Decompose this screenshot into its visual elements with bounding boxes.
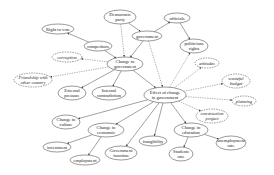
node-label: Right to vote xyxy=(46,27,70,32)
node-label: in government xyxy=(152,95,179,100)
node-label: government xyxy=(136,34,159,39)
node-label: project xyxy=(205,116,220,121)
node-friendship: Friendship withother country xyxy=(14,73,52,87)
edge-effect_of_change-to-planning xyxy=(186,97,233,101)
node-officials: officials xyxy=(164,13,190,23)
edge-effect_of_change-to-change_in_education xyxy=(171,103,186,124)
edge-effect_of_change-to-change_in_economic xyxy=(116,102,154,124)
node-external-pressure: Externalpressure xyxy=(58,86,86,100)
edge-democratic_party-to-change_to_government xyxy=(121,24,125,57)
node-politicians-rights: politiciansrights xyxy=(180,39,208,53)
node-label: officials xyxy=(170,16,185,21)
edge-change_to_government-to-corruption xyxy=(81,59,108,62)
node-investment: investment xyxy=(43,142,71,152)
edge-change_to_government-to-internal_contradiction xyxy=(113,71,121,86)
node-change-in-culture: Change inculture xyxy=(52,115,80,129)
node-change-to-government: Change togovernment xyxy=(107,57,143,71)
node-internal-contradiction: Internalcontradiction xyxy=(92,86,126,100)
node-change-in-education: Change ineducation xyxy=(174,123,208,137)
node-change-in-economic: Change ineconomic xyxy=(88,123,124,137)
nodes-layer: DemocraticpartyofficialsRight to votegov… xyxy=(14,10,256,165)
node-label: rate xyxy=(178,154,185,159)
node-label: corruption xyxy=(57,55,77,60)
node-label: employment xyxy=(74,158,98,163)
edge-effect_of_change-to-attitudes xyxy=(174,67,201,87)
node-label: other country xyxy=(21,80,47,85)
edge-change_to_government-to-external_pressure xyxy=(81,70,114,88)
edge-change_in_economic-to-investment xyxy=(67,135,93,144)
concept-map: DemocraticpartyofficialsRight to votegov… xyxy=(0,0,274,175)
node-label: investment xyxy=(47,145,68,150)
node-label: economic xyxy=(97,130,115,135)
node-frangibility: frangibility xyxy=(139,136,167,146)
edge-government-to-officials xyxy=(154,22,170,31)
edge-effect_of_change-to-frangibility xyxy=(154,103,163,136)
node-construction-project: constructionproject xyxy=(196,109,228,123)
node-employment: employment xyxy=(70,155,100,165)
node-right-to-vote: Right to vote xyxy=(42,24,74,34)
edge-change_to_government-to-effect_of_change xyxy=(133,70,156,88)
node-planning: planning xyxy=(232,96,256,106)
node-label: contradiction xyxy=(97,93,122,98)
edge-officials-to-politicians_rights xyxy=(180,23,190,39)
node-label: competitors xyxy=(87,44,109,49)
edge-effect_of_change-to-construction_project xyxy=(179,101,201,111)
edge-effect_of_change-to-politicians_rights xyxy=(170,53,190,87)
edge-effect_of_change-to-change_in_culture xyxy=(78,100,148,119)
node-label: function xyxy=(113,153,129,158)
node-wasteful-budget: wastefulbudget xyxy=(222,74,250,88)
node-students-rate: Studentsrate xyxy=(169,147,193,161)
node-unemployment-rate: unemploymentrate xyxy=(216,136,246,150)
edge-democratic_party-to-government xyxy=(128,23,140,32)
node-label: rate xyxy=(228,143,235,148)
node-government: government xyxy=(132,31,162,41)
node-corruption: corruption xyxy=(52,52,82,62)
node-label: education xyxy=(182,130,201,135)
node-label: party xyxy=(115,17,125,22)
edge-change_to_government-to-friendship xyxy=(50,67,108,77)
edge-competitors-to-right_to_vote xyxy=(67,33,89,42)
node-label: culture xyxy=(60,122,73,127)
node-label: pressure xyxy=(64,93,79,98)
node-label: rights xyxy=(189,46,200,51)
edge-government-to-effect_of_change xyxy=(149,41,163,87)
edge-change_in_economic-to-employment xyxy=(88,137,101,155)
node-effect-of-change: Effect of changein government xyxy=(144,87,186,103)
node-label: government xyxy=(114,64,137,69)
edge-government-to-change_to_government xyxy=(130,41,143,57)
node-attitudes: attitudes xyxy=(195,58,219,68)
node-democratic-party: Democraticparty xyxy=(104,10,136,24)
edge-change_in_education-to-students_rate xyxy=(184,137,188,147)
edge-effect_of_change-to-wasteful_budget xyxy=(184,84,223,92)
node-label: budget xyxy=(230,81,243,86)
node-label: planning xyxy=(235,99,253,104)
node-label: attitudes xyxy=(199,61,215,66)
node-label: frangibility xyxy=(143,139,164,144)
node-government-function: Governmentfunction xyxy=(105,146,137,160)
edge-competitors-to-change_to_government xyxy=(105,50,116,58)
node-competitors: competitors xyxy=(84,41,112,51)
